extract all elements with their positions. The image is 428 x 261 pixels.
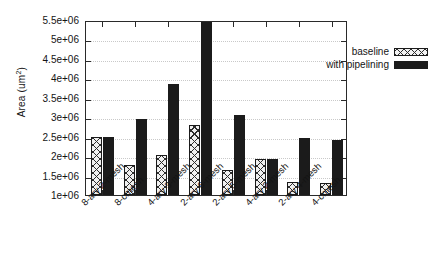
legend-entry-baseline: baseline [308, 45, 428, 58]
y-axis-tick-label: 5e+06 [19, 35, 79, 45]
y-axis-tick-label: 1.5e+06 [19, 172, 79, 182]
legend-swatch-with-pipelining [394, 61, 428, 69]
bar-group [124, 22, 147, 195]
y-axis-tick-label: 3.5e+06 [19, 94, 79, 104]
legend-label-baseline: baseline [352, 46, 389, 57]
legend-swatch-baseline [394, 48, 428, 56]
y-axis-tick-label: 2.5e+06 [19, 133, 79, 143]
y-axis-tick-label: 2e+06 [19, 152, 79, 162]
legend-entry-with-pipelining: with pipelining [308, 58, 428, 71]
y-axis-title-paren: ) [16, 67, 27, 71]
y-axis-tick-label: 3e+06 [19, 113, 79, 123]
legend-label-with-pipelining: with pipelining [326, 59, 389, 70]
y-axis-tick-label: 4.5e+06 [19, 55, 79, 65]
y-axis-tick-label: 5.5e+06 [19, 16, 79, 26]
y-axis-tick-label: 1e+06 [19, 191, 79, 201]
y-axis-tick-label: 4e+06 [19, 74, 79, 84]
legend: baseline with pipelining [308, 45, 428, 71]
